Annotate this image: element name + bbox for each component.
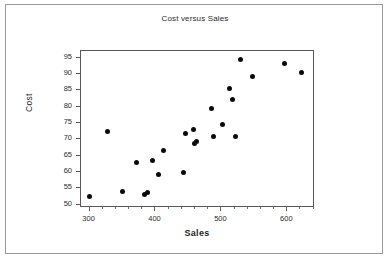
x-axis-minor-tick-mark: [154, 207, 155, 209]
scatter-point: [181, 170, 186, 175]
y-axis-tick-label: 85: [50, 85, 72, 93]
plot-area-frame: [80, 50, 314, 207]
x-axis-minor-tick-mark: [89, 207, 90, 209]
scatter-point: [227, 86, 232, 91]
scatter-point: [282, 61, 287, 66]
y-axis-tick-label: 95: [50, 53, 72, 61]
x-axis-tick-label: 400: [134, 215, 174, 223]
x-axis-minor-tick-mark: [220, 207, 221, 209]
figure-canvas: Cost versus Sales Cost 50556065707580859…: [0, 0, 390, 260]
scatter-point: [250, 74, 255, 79]
y-axis-tick-label: 80: [50, 102, 72, 110]
scatter-point: [299, 70, 304, 75]
scatter-point: [161, 148, 166, 153]
scatter-point: [120, 189, 125, 194]
x-axis-tick-label: 300: [69, 215, 109, 223]
scatter-point: [238, 57, 243, 62]
scatter-point: [209, 106, 214, 111]
x-axis-minor-tick-mark: [273, 207, 274, 209]
x-axis-minor-tick-mark: [194, 207, 195, 209]
scatter-point-group: [81, 51, 313, 206]
y-axis-title: Cost: [24, 93, 34, 112]
scatter-point: [183, 131, 188, 136]
x-axis-minor-tick-mark: [168, 207, 169, 209]
x-axis-minor-tick-mark: [141, 207, 142, 209]
y-axis-tick-label: 65: [50, 151, 72, 159]
scatter-point: [233, 134, 238, 139]
y-axis-tick-label: 50: [50, 200, 72, 208]
scatter-point: [134, 160, 139, 165]
x-axis-minor-tick-mark: [260, 207, 261, 209]
x-axis-minor-tick-mark: [234, 207, 235, 209]
x-axis-minor-tick-mark: [128, 207, 129, 209]
scatter-point: [211, 134, 216, 139]
x-axis-minor-tick-mark: [207, 207, 208, 209]
scatter-point: [87, 194, 92, 199]
y-axis-tick-label: 60: [50, 167, 72, 175]
x-axis-minor-tick-mark: [102, 207, 103, 209]
x-axis-minor-tick-mark: [313, 207, 314, 209]
x-axis-minor-tick-mark: [247, 207, 248, 209]
y-axis-tick-label: 70: [50, 134, 72, 142]
x-axis-minor-tick-mark: [299, 207, 300, 209]
x-axis-tick-label: 500: [200, 215, 240, 223]
scatter-point: [145, 190, 150, 195]
scatter-point: [150, 158, 155, 163]
x-axis-tick-label: 600: [266, 215, 306, 223]
y-axis-tick-label: 90: [50, 69, 72, 77]
scatter-point: [220, 122, 225, 127]
x-axis-title: Sales: [80, 228, 314, 238]
scatter-point: [191, 127, 196, 132]
x-axis-minor-tick-mark: [181, 207, 182, 209]
scatter-point: [156, 172, 161, 177]
y-axis-tick-label: 55: [50, 183, 72, 191]
x-axis-minor-tick-mark: [286, 207, 287, 209]
x-axis-minor-tick-mark: [115, 207, 116, 209]
scatter-point: [230, 97, 235, 102]
scatter-point: [105, 129, 110, 134]
scatter-point: [194, 139, 199, 144]
y-axis-tick-label: 75: [50, 118, 72, 126]
chart-title: Cost versus Sales: [0, 14, 390, 23]
